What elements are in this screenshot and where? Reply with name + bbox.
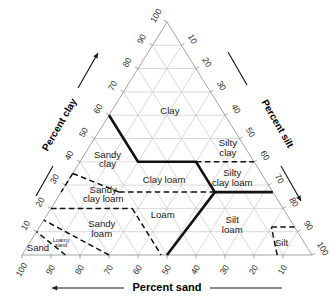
tick-mark-right	[182, 44, 185, 46]
region-label: Siltyclay	[219, 136, 237, 157]
tick-label-right: 10	[186, 32, 200, 45]
tick-mark-right	[240, 137, 243, 139]
tick-mark-right	[211, 90, 214, 92]
region-label-line: Clay loam	[143, 174, 186, 185]
tick-label-bottom: 20	[247, 263, 261, 276]
boundary-dashed	[61, 173, 73, 192]
tick-mark-left	[92, 137, 95, 139]
tick-label-left: 100	[148, 7, 164, 25]
tick-label-bottom: 90	[44, 263, 58, 276]
tick-label-left: 60	[91, 102, 105, 115]
grid-lines	[37, 45, 298, 255]
region-label: Siltyclay loam	[212, 167, 253, 188]
region-label: Siltloam	[222, 213, 243, 234]
region-label-line: Loam	[151, 209, 175, 220]
tick-mark-left	[150, 44, 153, 46]
axis-title-right: Percent silt	[260, 97, 297, 150]
region-label-line: clay	[99, 158, 116, 169]
axis-arrow-left	[78, 53, 98, 88]
tick-label-right: 60	[258, 149, 272, 162]
axis-arrow-right	[281, 166, 301, 201]
region-label: Loam	[151, 209, 175, 220]
tick-mark-right	[312, 253, 315, 255]
axis-title-left: Percent clay	[40, 96, 79, 153]
tick-label-bottom: 60	[131, 263, 145, 276]
region-label: Clay loam	[143, 174, 186, 185]
region-label: Clay	[160, 104, 179, 115]
region-label-line: clay	[219, 146, 236, 157]
region-label: Sandyloam	[88, 218, 115, 239]
tick-mark-left	[48, 207, 51, 209]
region-label-line: sand	[55, 243, 67, 249]
tick-label-right: 50	[244, 125, 258, 138]
region-label-line: Sand	[27, 242, 49, 253]
boundary-dashed	[151, 239, 161, 255]
boundary-solid	[167, 192, 215, 255]
axis-ticks	[22, 20, 315, 258]
region-label: Sandyclay loam	[83, 183, 124, 204]
tick-mark-left	[106, 114, 109, 116]
tick-mark-right	[283, 207, 286, 209]
boundary-dashed	[132, 208, 151, 238]
region-label-line: Silt	[275, 237, 289, 248]
region-label: Loamysand	[53, 237, 70, 249]
region-label: Sandyclay	[94, 148, 121, 169]
tick-mark-left	[164, 20, 167, 22]
tick-label-left: 30	[48, 172, 62, 185]
tick-mark-left	[34, 230, 37, 232]
tick-label-bottom: 40	[189, 263, 203, 276]
tick-label-right: 70	[273, 172, 287, 185]
tick-label-left: 20	[33, 195, 47, 208]
axis-title-bottom: Percent sand	[132, 281, 201, 293]
tick-label-left: 70	[106, 79, 120, 92]
region-label: Silt	[275, 237, 289, 248]
region-label-line: loam	[222, 223, 243, 234]
tick-label-bottom: 50	[160, 263, 174, 276]
region-label-line: Clay	[160, 104, 179, 115]
tick-mark-right	[269, 183, 272, 185]
region-label-line: clay loam	[212, 177, 253, 188]
tick-label-bottom: 70	[102, 263, 116, 276]
tick-label-left: 40	[62, 149, 76, 162]
tick-label-bottom: 80	[73, 263, 87, 276]
tick-label-left: 80	[120, 55, 134, 68]
axis-arrow-bottom-head	[52, 286, 57, 291]
tick-mark-right	[254, 160, 257, 162]
tick-label-bottom: 30	[218, 263, 232, 276]
tick-label-bottom: 100	[13, 261, 29, 279]
tick-mark-right	[225, 114, 228, 116]
tick-label-right: 20	[200, 56, 214, 69]
tick-mark-left	[77, 160, 80, 162]
tick-mark-left	[135, 67, 138, 69]
tick-label-left: 10	[19, 219, 33, 232]
region-label-line: loam	[91, 228, 112, 239]
soil-texture-triangle: 1020304050607080901001020304050607080901…	[0, 0, 335, 307]
axis-guide-right	[228, 52, 247, 85]
tick-mark-left	[121, 90, 124, 92]
tick-label-left: 50	[77, 125, 91, 138]
tick-label-right: 100	[315, 240, 331, 258]
tick-label-right: 30	[215, 79, 229, 92]
tick-label-left: 90	[135, 32, 149, 45]
tick-label-right: 90	[302, 219, 316, 232]
region-label-line: clay loam	[83, 193, 124, 204]
region-label: Sand	[27, 242, 49, 253]
tick-mark-right	[298, 230, 301, 232]
tick-mark-right	[196, 67, 199, 69]
axis-titles: Percent clayPercent siltPercent sand	[36, 52, 301, 293]
tick-label-right: 40	[229, 102, 243, 115]
tick-label-bottom: 10	[276, 263, 290, 276]
